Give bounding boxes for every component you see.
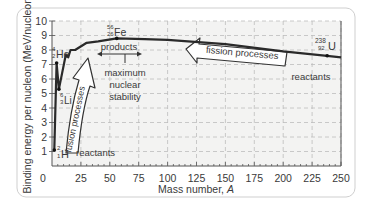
isotope-Li: 6 3 Li — [60, 92, 72, 106]
reactants-label-right: reactants — [291, 71, 330, 82]
y-tick-label: 9 — [41, 29, 47, 41]
isotope-marker — [57, 87, 61, 91]
max-stability-line3: stability — [109, 91, 141, 102]
y-axis-label: Binding energy per nucleon (MeV/nucleon) — [21, 0, 33, 194]
svg-text:238: 238 — [315, 37, 326, 44]
x-axis-label: Mass number, A — [158, 183, 234, 195]
isotope-H: 2 1 H — [57, 145, 69, 160]
x-tick-label: 50 — [104, 172, 116, 184]
max-stability-line1: maximum — [104, 67, 145, 78]
x-tick-label: 0 — [40, 172, 46, 184]
svg-text:He: He — [56, 48, 70, 60]
products-label: products — [101, 41, 138, 52]
y-tick-label: 8 — [41, 44, 47, 56]
svg-text:Li: Li — [64, 95, 72, 106]
y-tick-label: 5 — [41, 87, 47, 99]
binding-energy-chart: 123456789100255075100125150175200225250 … — [0, 0, 372, 209]
x-tick-label: 75 — [133, 172, 145, 184]
svg-text:H: H — [61, 148, 69, 160]
x-tick-label: 200 — [274, 172, 292, 184]
y-tick-label: 6 — [41, 73, 47, 85]
isotope-marker — [325, 54, 329, 58]
x-tick-label: 175 — [246, 172, 264, 184]
isotope-marker — [53, 148, 57, 152]
x-tick-label: 250 — [332, 172, 350, 184]
y-tick-label: 3 — [41, 116, 47, 128]
svg-text:U: U — [328, 40, 336, 52]
reactants-label-left: reactants — [76, 147, 115, 158]
isotope-He: 4 2 He — [52, 46, 70, 60]
y-tick-label: 7 — [41, 58, 47, 70]
max-stability-line2: nuclear — [109, 79, 140, 90]
x-tick-label: 25 — [75, 172, 87, 184]
svg-text:92: 92 — [318, 45, 325, 51]
y-tick-label: 10 — [35, 15, 47, 27]
y-tick-label: 2 — [41, 131, 47, 143]
y-tick-label: 1 — [41, 145, 47, 157]
x-tick-label: 225 — [303, 172, 321, 184]
isotope-marker — [55, 61, 59, 65]
svg-text:Fe: Fe — [114, 26, 126, 38]
y-tick-label: 4 — [41, 102, 47, 114]
isotope-Fe: 56 26 Fe — [107, 24, 126, 38]
